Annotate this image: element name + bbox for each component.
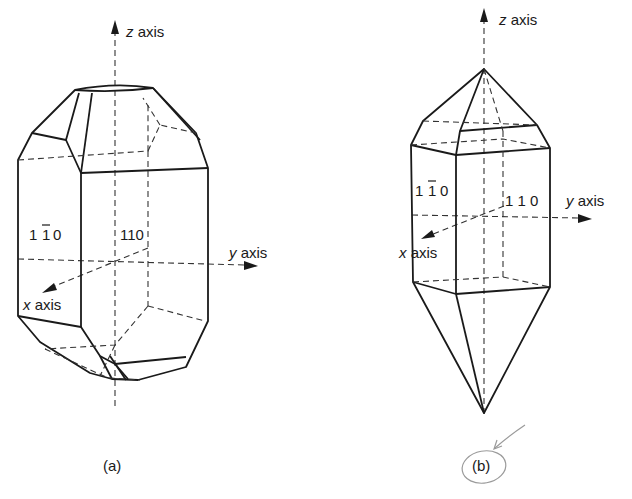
y-axis-label: y axis — [228, 244, 267, 261]
face-label-b-1-bar-1-0: 1 1 0 — [415, 181, 448, 199]
crystal-diagram: z axis y axis x axis 1 1 0 110 (a) — [0, 0, 632, 499]
y-axis-arrow-icon-b — [578, 214, 592, 223]
z-axis-arrow-icon-b — [480, 8, 488, 22]
x-axis-label: x axis — [22, 296, 61, 313]
y-axis-line-b — [412, 215, 580, 218]
caption-b: (b) — [472, 457, 490, 474]
svg-text:1: 1 — [415, 182, 423, 199]
crystal-b: z axis y axis x axis 1 1 0 1 1 0 (b) — [398, 8, 604, 487]
svg-text:1: 1 — [428, 182, 436, 199]
z-axis-label: z axis — [125, 23, 164, 40]
x-axis-line-b — [428, 206, 504, 236]
svg-text:1: 1 — [29, 226, 37, 243]
crystal-b-outline — [411, 69, 550, 413]
svg-text:1: 1 — [42, 226, 50, 243]
z-axis-label-b: z axis — [498, 11, 537, 28]
crystal-a: z axis y axis x axis 1 1 0 110 (a) — [18, 20, 267, 474]
handwritten-check-icon — [495, 425, 525, 448]
z-axis-arrow-icon — [111, 20, 119, 34]
face-label-110: 110 — [120, 226, 144, 243]
x-axis-line — [50, 248, 148, 288]
x-axis-arrow-icon-b — [421, 230, 435, 239]
svg-text:0: 0 — [440, 182, 448, 199]
x-axis-arrow-icon — [42, 283, 57, 293]
face-label-b-110: 1 1 0 — [505, 192, 538, 209]
caption-a: (a) — [103, 457, 121, 474]
y-axis-line — [18, 259, 245, 265]
x-axis-label-b: x axis — [398, 244, 437, 261]
y-axis-label-b: y axis — [565, 192, 604, 209]
face-label-1-bar-1-0: 1 1 0 — [29, 225, 61, 243]
y-axis-arrow-icon — [244, 261, 258, 270]
svg-text:0: 0 — [53, 226, 61, 243]
